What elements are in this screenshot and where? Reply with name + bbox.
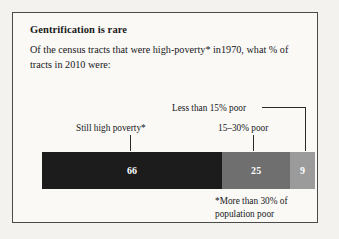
leader-line-less-than-15-horizontal bbox=[262, 107, 306, 108]
label-15-to-30-poor: 15–30% poor bbox=[218, 123, 268, 133]
bar-segment-still-high-poverty: 66 bbox=[42, 152, 222, 189]
bar-value-still-high-poverty: 66 bbox=[127, 165, 137, 176]
label-still-high-poverty: Still high poverty* bbox=[76, 123, 146, 133]
bar-segment-15-to-30-poor: 25 bbox=[222, 152, 290, 189]
figure-footnote: *More than 30% of population poor bbox=[215, 195, 311, 220]
leader-line-still-high-poverty-vertical bbox=[130, 135, 131, 151]
stacked-bar-chart: 66 25 9 bbox=[42, 152, 315, 189]
label-less-than-15-poor: Less than 15% poor bbox=[172, 103, 246, 113]
bar-value-15-to-30-poor: 25 bbox=[251, 165, 261, 176]
leader-line-15-to-30-vertical bbox=[253, 135, 254, 151]
leader-line-less-than-15-vertical bbox=[305, 107, 306, 151]
figure-subtitle: Of the census tracts that were high-pove… bbox=[30, 43, 306, 72]
figure-page: Gentrification is rare Of the census tra… bbox=[0, 0, 339, 239]
page-title: Gentrification is rare bbox=[30, 24, 127, 35]
bar-segment-less-than-15-poor: 9 bbox=[290, 152, 315, 189]
figure-frame: Gentrification is rare Of the census tra… bbox=[12, 12, 318, 223]
bar-value-less-than-15-poor: 9 bbox=[300, 165, 305, 176]
